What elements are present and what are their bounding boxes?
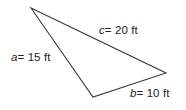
- side-b-equals: =: [137, 87, 144, 99]
- side-b-value: 10: [147, 87, 160, 99]
- side-label-b: b= 10 ft: [130, 88, 170, 100]
- side-a-unit: ft: [44, 51, 51, 63]
- side-a-equals: =: [18, 51, 25, 63]
- triangle-shape: [31, 8, 166, 97]
- side-label-a: a= 15 ft: [11, 52, 51, 64]
- side-label-c: c= 20 ft: [99, 25, 138, 37]
- side-c-value: 20: [115, 24, 128, 36]
- side-b-unit: ft: [163, 87, 170, 99]
- triangle-figure: a= 15 ft b= 10 ft c= 20 ft: [0, 0, 186, 110]
- side-c-equals: =: [105, 24, 112, 36]
- side-c-unit: ft: [131, 24, 138, 36]
- side-a-value: 15: [28, 51, 41, 63]
